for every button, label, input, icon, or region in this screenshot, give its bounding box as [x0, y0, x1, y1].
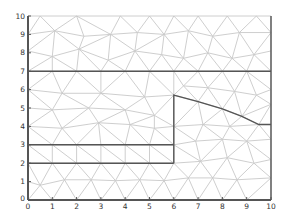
y-tick-label: 4: [20, 122, 25, 131]
mesh-edge: [222, 139, 246, 141]
mesh-edge: [227, 141, 246, 158]
mesh-edge: [52, 93, 62, 110]
y-tick-label: 7: [20, 67, 25, 76]
mesh-edge: [174, 161, 201, 163]
mesh-edge: [140, 180, 164, 181]
mesh-edge: [91, 180, 115, 181]
mesh-edge: [196, 139, 223, 141]
mesh-edge: [52, 128, 62, 145]
mesh-edge: [235, 91, 242, 116]
mesh-edge: [239, 16, 256, 33]
mesh-edge: [254, 163, 271, 178]
mesh-edge: [28, 145, 52, 163]
mesh-edge: [174, 102, 198, 127]
mesh-edge: [125, 110, 130, 125]
mesh-edge: [227, 158, 254, 164]
mesh-edge: [28, 126, 62, 128]
mesh-edge: [150, 145, 174, 163]
x-tick-label: 8: [220, 202, 225, 211]
mesh-edge: [150, 181, 165, 200]
mesh-edge: [130, 115, 154, 124]
mesh-edge: [254, 55, 271, 72]
mesh-edge: [208, 88, 235, 92]
mesh-edge: [52, 71, 62, 93]
y-tick-label: 0: [20, 194, 25, 203]
mesh-edge: [145, 97, 155, 115]
mesh-edge: [77, 71, 101, 93]
mesh-edge: [150, 163, 165, 180]
mesh-edge: [188, 161, 200, 178]
mesh-edge: [77, 180, 92, 200]
mesh-edge: [174, 16, 189, 31]
x-tick-label: 7: [196, 202, 201, 211]
mesh-edge: [213, 178, 223, 200]
mesh-edge: [162, 34, 164, 54]
mesh-edge: [247, 141, 271, 159]
mesh-edge: [227, 16, 239, 33]
mesh-edge: [91, 163, 101, 180]
mesh-edge: [101, 93, 145, 97]
mesh-edge: [120, 16, 137, 33]
mesh-edge: [52, 163, 64, 180]
mesh-edge: [55, 31, 79, 49]
mesh-edge: [101, 145, 125, 163]
y-tick-label: 3: [20, 140, 25, 149]
y-tick-label: 10: [15, 12, 25, 21]
mesh-edge: [222, 139, 227, 157]
mesh-edge: [77, 49, 79, 71]
mesh-edge: [198, 71, 208, 88]
mesh-edge: [28, 71, 52, 89]
mesh-edge: [28, 90, 52, 110]
mesh-edge: [28, 108, 52, 110]
triangular-mesh: [28, 16, 271, 200]
mesh-edge: [213, 33, 240, 37]
mesh-edge: [125, 71, 144, 97]
mesh-edge: [213, 16, 228, 36]
mesh-edge: [52, 108, 88, 110]
mesh-edge: [237, 178, 271, 180]
mesh-edge: [154, 95, 173, 115]
x-tick-label: 6: [171, 202, 176, 211]
boundary-interface: [174, 95, 271, 163]
mesh-edge: [184, 53, 208, 59]
mesh-edge: [184, 58, 199, 71]
mesh-edge: [40, 163, 52, 185]
mesh-edge: [198, 102, 203, 125]
mesh-edge: [64, 163, 76, 180]
mesh-edge: [188, 16, 198, 31]
y-tick-label: 1: [20, 177, 25, 186]
mesh-edge: [101, 71, 125, 93]
mesh-edge: [28, 126, 52, 144]
mesh-edge: [174, 178, 189, 200]
mesh-edge: [203, 125, 222, 140]
mesh-edge: [174, 58, 184, 71]
mesh-edge: [174, 145, 201, 162]
mesh-edge: [28, 16, 40, 34]
mesh-edge: [125, 145, 149, 163]
mesh-edge: [150, 71, 174, 95]
x-tick-label: 10: [266, 202, 276, 211]
x-tick-label: 4: [123, 202, 128, 211]
mesh-edge: [89, 108, 125, 110]
mesh-edge: [140, 180, 150, 200]
mesh-edge: [64, 180, 76, 200]
mesh-edge: [115, 181, 125, 200]
mesh-edge: [79, 49, 101, 71]
mesh-edge: [259, 125, 271, 140]
mesh-edge: [154, 126, 173, 128]
mesh-edge: [174, 71, 184, 86]
mesh-edge: [164, 163, 174, 180]
mesh-edge: [62, 93, 89, 108]
mesh-edge: [230, 126, 247, 141]
mesh-edge: [208, 71, 223, 88]
mesh-edge: [98, 123, 125, 145]
mesh-edge: [256, 16, 271, 33]
mesh-edge: [52, 110, 62, 128]
mesh-edge: [140, 163, 150, 180]
mesh-edge: [259, 104, 271, 124]
mesh-edge: [188, 178, 198, 200]
y-tick-label: 8: [20, 48, 25, 57]
mesh-edge: [235, 91, 257, 95]
mesh-edge: [111, 34, 135, 51]
mesh-edge: [101, 181, 116, 200]
